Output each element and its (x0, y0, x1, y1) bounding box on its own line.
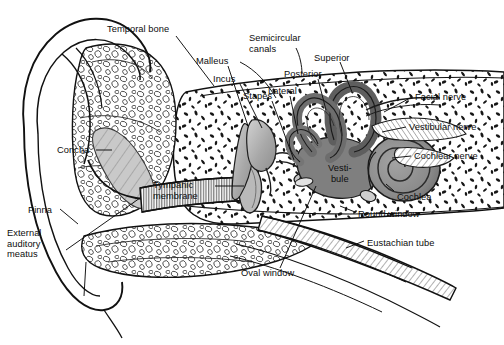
label-eustachian-tube: Eustachian tube (367, 238, 434, 249)
label-pinna: Pinna (28, 205, 52, 216)
label-temporal-bone: Temporal bone (107, 24, 169, 35)
label-cochlea: Cochlea (397, 192, 431, 203)
ear-anatomy-figure: Temporal bone Malleus Incus Stapes Semic… (0, 0, 504, 345)
label-posterior: Posterior (284, 69, 322, 80)
label-facial-nerve: Facial nerve (415, 92, 466, 103)
label-round-window: Round window (358, 209, 420, 220)
label-concha: Concha (57, 145, 89, 156)
label-vestibule: Vesti- bule (328, 163, 352, 184)
label-semicircular-canals: Semicircular canals (249, 33, 301, 54)
label-superior: Superior (314, 53, 350, 64)
label-external-auditory-meatus: External auditory meatus (7, 228, 41, 260)
label-tympanic-membrane: Tympanic membrane (153, 180, 198, 201)
label-cochlear-nerve: Cochlear nerve (414, 151, 478, 162)
label-malleus: Malleus (196, 56, 228, 67)
label-oval-window: Oval window (241, 268, 294, 279)
label-incus: Incus (213, 74, 235, 85)
label-vestibular-nerve: Vestibular nerve (409, 122, 476, 133)
label-lateral: Lateral (268, 86, 297, 97)
